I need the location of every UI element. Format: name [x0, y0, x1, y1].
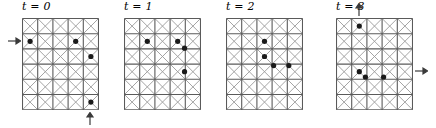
particle-dot	[262, 39, 267, 44]
particle-dot	[88, 100, 93, 105]
particle-dot	[182, 46, 187, 51]
time-step-panel: t = 1	[124, 0, 224, 128]
time-step-panel: t = 3	[336, 0, 436, 128]
lattice-grid-wrapper	[336, 18, 412, 105]
particle-dot	[145, 39, 150, 44]
grid-lines	[125, 19, 201, 110]
time-step-label: t = 1	[124, 0, 153, 13]
particle-dot	[182, 69, 187, 74]
particle-dot	[262, 54, 267, 59]
particle-dot	[88, 54, 93, 59]
particle-dot	[357, 69, 362, 74]
lattice-grid	[124, 18, 201, 110]
time-step-panel: t = 2	[226, 0, 326, 128]
grid-lines	[23, 19, 99, 110]
inflow-arrow-left	[7, 34, 21, 48]
particle-dot	[363, 74, 368, 79]
particle-dot	[286, 63, 291, 68]
time-step-label: t = 2	[226, 0, 255, 13]
lattice-gas-figure: t = 0t = 1t = 2t = 3	[0, 0, 436, 128]
particle-dot	[175, 39, 180, 44]
lattice-grid	[336, 18, 413, 110]
lattice-grid	[22, 18, 99, 110]
grid-lines	[337, 19, 413, 110]
particle-dot	[357, 24, 362, 29]
outflow-arrow-right	[414, 64, 428, 78]
lattice-grid-wrapper	[226, 18, 302, 105]
particle-dot	[381, 74, 386, 79]
particle-dot	[28, 39, 33, 44]
particle-dot	[73, 39, 78, 44]
particle-dot	[271, 63, 276, 68]
time-step-panel: t = 0	[22, 0, 122, 128]
time-step-label: t = 3	[336, 0, 365, 13]
lattice-grid-wrapper	[124, 18, 200, 105]
time-step-label: t = 0	[22, 0, 51, 13]
grid-lines	[227, 19, 303, 110]
lattice-grid-wrapper	[22, 18, 98, 105]
lattice-grid	[226, 18, 303, 110]
inflow-arrow-bottom	[83, 112, 97, 126]
